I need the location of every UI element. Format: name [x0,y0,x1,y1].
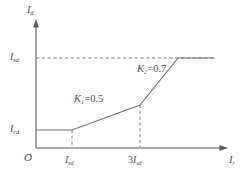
slope-1-annotation: K1=0.5 [74,94,103,105]
slope-1-value: =0.5 [84,93,103,104]
slope-2-annotation: K2=0.7 [137,64,166,75]
y-tick-isd-sub: sd [13,56,19,63]
y-axis-label-sub: d [30,9,33,16]
origin-label: O [24,152,32,163]
y-tick-label-icd: Icd [10,124,19,134]
slope-1-base: K [74,93,81,104]
slope-2-base: K [137,63,144,74]
x-axis-label: Ir [229,155,235,166]
y-tick-label-isd: Isd [10,52,19,62]
x-tick-3isd-sub: sd [136,159,142,166]
x-tick-isd-sub: sd [68,159,74,166]
differential-protection-characteristic-chart: Id Ir O Isd Icd Isd 3Isd K1=0.5 K2=0.7 [0,0,251,179]
slope-2-sub: 2 [144,68,147,75]
x-tick-label-3isd: 3Isd [128,155,142,165]
slope-1-sub: 1 [81,98,84,105]
y-tick-icd-sub: cd [13,128,19,135]
slope-2-value: =0.7 [147,63,166,74]
x-tick-label-isd: Isd [65,155,74,165]
x-axis-arrowhead [219,145,228,151]
chart-canvas [0,0,251,179]
characteristic-curve [36,58,215,130]
y-axis-arrowhead [33,19,39,28]
x-axis-label-sub: r [232,159,235,166]
y-axis-label: Id [27,5,34,16]
